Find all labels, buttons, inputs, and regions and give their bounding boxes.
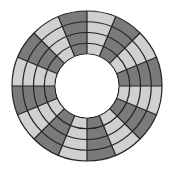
center-hole (56, 55, 119, 118)
segmented-ring-diagram (0, 0, 175, 176)
